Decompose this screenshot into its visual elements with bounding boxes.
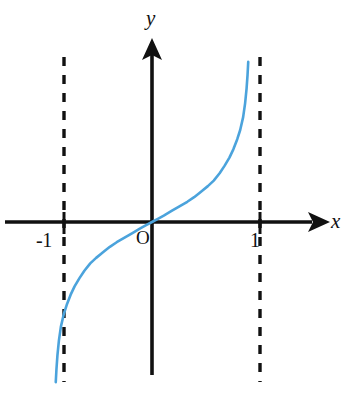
x-tick-label-positive-one: 1 xyxy=(250,230,260,250)
x-axis-label: x xyxy=(331,211,340,232)
graph-figure: y x O -1 1 xyxy=(0,0,349,407)
origin-label: O xyxy=(136,228,150,247)
y-axis-label: y xyxy=(146,8,155,29)
x-tick-label-negative-one: -1 xyxy=(36,230,52,250)
plot-canvas xyxy=(0,0,349,407)
